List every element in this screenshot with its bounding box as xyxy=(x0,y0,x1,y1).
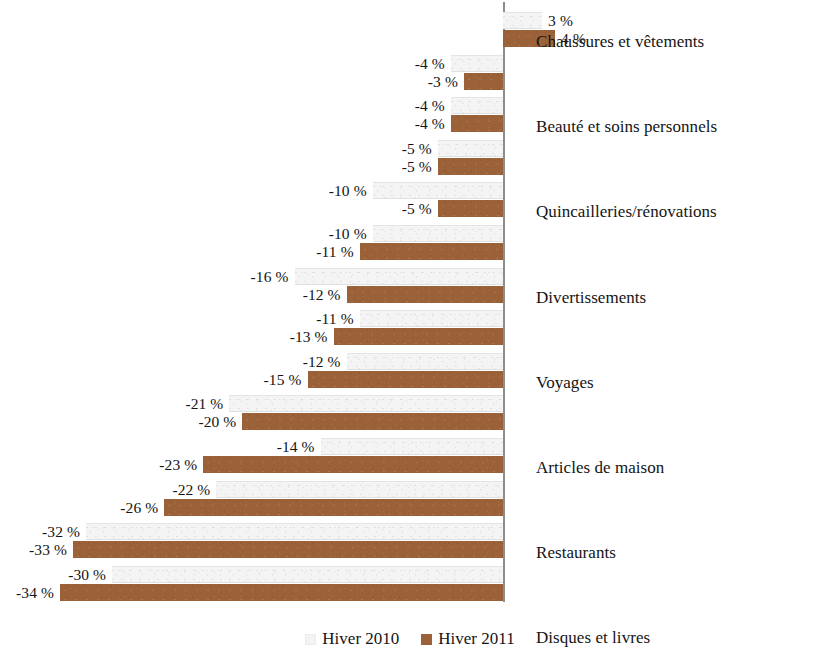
bar-2010 xyxy=(360,310,503,327)
bar-2010 xyxy=(86,523,503,540)
value-label: -30 % xyxy=(0,566,106,583)
bar-2011 xyxy=(334,328,503,345)
bar-2010 xyxy=(451,55,503,72)
bar-2010 xyxy=(373,225,503,242)
bar-2011 xyxy=(464,73,503,90)
value-label: -3 % xyxy=(0,73,458,90)
bar-2011 xyxy=(164,499,503,516)
chart-row: -4 %-3 %Beauté et soins personnels xyxy=(0,55,820,90)
chart-row: -4 %-4 %Quincailleries/rénovations xyxy=(0,97,820,132)
value-label: -26 % xyxy=(0,499,158,516)
value-label: -11 % xyxy=(0,243,354,260)
chart-row: 3 %4 %Chaussures et vêtements xyxy=(0,12,820,47)
bar-2011 xyxy=(438,158,503,175)
chart-row: -14 %-23 %Jouets xyxy=(0,438,820,473)
legend-swatch-2011 xyxy=(421,634,432,645)
value-label: -4 % xyxy=(0,55,445,72)
bar-2011 xyxy=(360,243,503,260)
chart-row: -11 %-13 %Disques et livres xyxy=(0,310,820,345)
value-label: -21 % xyxy=(0,395,223,412)
bar-2010 xyxy=(321,438,503,455)
bar-2011 xyxy=(242,413,503,430)
bar-2010 xyxy=(438,140,503,157)
bar-2011 xyxy=(438,200,503,217)
value-label: -32 % xyxy=(0,523,80,540)
bar-2011 xyxy=(308,371,503,388)
value-label: -10 % xyxy=(0,225,367,242)
chart-row: -32 %-33 %Appareils électroniques portat… xyxy=(0,523,820,558)
chart-row: -5 %-5 %Divertissements xyxy=(0,140,820,175)
chart-legend: Hiver 2010Hiver 2011 xyxy=(0,622,820,656)
legend-label: Hiver 2010 xyxy=(322,629,399,649)
chart-row: -22 %-26 %Matériel informatique xyxy=(0,481,820,516)
bar-2010 xyxy=(373,182,503,199)
value-label: -12 % xyxy=(0,353,341,370)
value-label: -5 % xyxy=(0,158,432,175)
value-label: 3 % xyxy=(548,12,668,29)
legend-swatch-2010 xyxy=(305,634,316,645)
value-label: -5 % xyxy=(0,200,432,217)
value-label: -34 % xyxy=(0,584,54,601)
bar-2010 xyxy=(112,566,503,583)
bar-2011 xyxy=(73,541,503,558)
bar-2011 xyxy=(60,584,503,601)
value-label: -11 % xyxy=(0,310,354,327)
value-label: -4 % xyxy=(0,97,445,114)
chart-row: -10 %-11 %Articles de maison xyxy=(0,225,820,260)
value-label: -16 % xyxy=(0,268,289,285)
value-label: -33 % xyxy=(0,541,67,558)
value-label: -14 % xyxy=(0,438,315,455)
bar-2011 xyxy=(451,115,503,132)
value-label: -23 % xyxy=(0,456,197,473)
bar-2011 xyxy=(203,456,503,473)
value-label: -15 % xyxy=(0,371,302,388)
value-label: -13 % xyxy=(0,328,328,345)
value-label: -12 % xyxy=(0,286,341,303)
chart-row: -30 %-34 %Appareils audio ou vidéo xyxy=(0,566,820,601)
bar-2010 xyxy=(503,12,542,29)
bar-2010 xyxy=(347,353,503,370)
legend-item: Hiver 2010 xyxy=(305,629,399,649)
plot-area: 3 %4 %Chaussures et vêtements-4 %-3 %Bea… xyxy=(0,0,820,614)
bar-2010 xyxy=(216,481,503,498)
value-label: -5 % xyxy=(0,140,432,157)
chart-row: -10 %-5 %Voyages xyxy=(0,182,820,217)
chart-row: -12 %-15 %Articles de sport xyxy=(0,353,820,388)
value-label: -20 % xyxy=(0,413,236,430)
category-label: Chaussures et vêtements xyxy=(536,32,704,52)
bar-2010 xyxy=(229,395,503,412)
chart-row: -16 %-12 %Restaurants xyxy=(0,268,820,303)
value-label: -22 % xyxy=(0,481,210,498)
bar-2011 xyxy=(347,286,503,303)
bar-chart: 3 %4 %Chaussures et vêtements-4 %-3 %Bea… xyxy=(0,0,820,662)
chart-row: -21 %-20 %Meubles et électroménagers xyxy=(0,395,820,430)
legend-label: Hiver 2011 xyxy=(438,629,514,649)
bar-2010 xyxy=(451,97,503,114)
value-label: -10 % xyxy=(0,182,367,199)
bar-2010 xyxy=(295,268,503,285)
legend-item: Hiver 2011 xyxy=(421,629,514,649)
value-label: -4 % xyxy=(0,115,445,132)
